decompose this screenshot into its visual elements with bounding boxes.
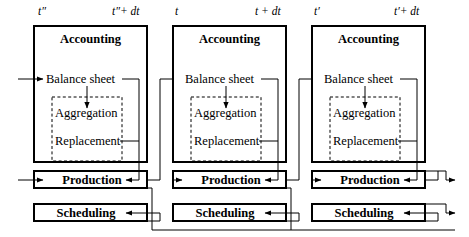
- accounting-header: Accounting: [60, 32, 122, 46]
- replacement-label: Replacement: [55, 134, 121, 148]
- wire-scheduling-bottom-rail: [286, 213, 299, 221]
- time-label-t2-start: t″: [38, 5, 46, 17]
- time-label-t1-end: t′+ dt: [394, 5, 420, 17]
- wire-production-up-next-period: [147, 86, 160, 180]
- time-label-t-start: t: [175, 5, 179, 17]
- aggregation-label: Aggregation: [333, 106, 396, 120]
- aggregation-label: Aggregation: [194, 106, 257, 120]
- wire-production-up-next-period: [286, 86, 299, 180]
- production-label: Production: [201, 173, 261, 187]
- wire-scheduling-bottom-rail: [147, 213, 160, 221]
- flow-diagram: t″ t″+ dt t t + dt t′ t′+ dt Accounting …: [0, 0, 469, 237]
- time-label-t-end: t + dt: [255, 5, 281, 17]
- balance-sheet-label: Balance sheet: [324, 72, 394, 86]
- wire-production-out: [425, 171, 455, 180]
- production-label: Production: [340, 173, 400, 187]
- wire-scheduling-out-riser: [425, 213, 438, 221]
- accounting-header: Accounting: [199, 32, 261, 46]
- wire-scheduling-out: [425, 204, 455, 213]
- replacement-label: Replacement: [333, 134, 399, 148]
- panel-2: Accounting Balance sheet Aggregation Rep…: [173, 26, 299, 221]
- panel-1: Accounting Balance sheet Aggregation Rep…: [18, 26, 160, 221]
- scheduling-label: Scheduling: [334, 206, 394, 220]
- wire-production-out-riser: [425, 171, 438, 180]
- balance-sheet-label: Balance sheet: [185, 72, 255, 86]
- scheduling-label: Scheduling: [56, 206, 116, 220]
- production-label: Production: [62, 173, 122, 187]
- aggregation-label: Aggregation: [55, 106, 118, 120]
- accounting-header: Accounting: [338, 32, 400, 46]
- diagram-canvas: t″ t″+ dt t t + dt t′ t′+ dt Accounting …: [0, 0, 469, 237]
- replacement-label: Replacement: [194, 134, 260, 148]
- balance-sheet-label: Balance sheet: [46, 72, 116, 86]
- scheduling-label: Scheduling: [195, 206, 255, 220]
- time-label-t1-start: t′: [314, 5, 320, 17]
- time-label-t2-end: t″+ dt: [112, 5, 140, 17]
- panel-3: Accounting Balance sheet Aggregation Rep…: [312, 26, 438, 221]
